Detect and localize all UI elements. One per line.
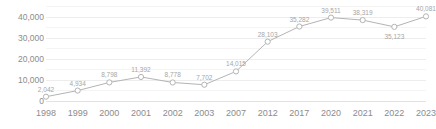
x-axis-tick-label: 2000 bbox=[99, 108, 119, 118]
y-axis-tick-label: 10,000 bbox=[2, 76, 44, 85]
data-point-label: 4,934 bbox=[70, 80, 86, 87]
x-axis-tick-label: 2003 bbox=[194, 108, 214, 118]
data-point-marker[interactable] bbox=[360, 18, 365, 23]
data-point-label: 8,798 bbox=[101, 71, 117, 78]
x-axis-tick-label: 2017 bbox=[289, 108, 309, 118]
y-axis-tick-label: 0 bbox=[2, 97, 44, 106]
data-point-label: 11,392 bbox=[131, 66, 150, 73]
data-point-marker[interactable] bbox=[75, 88, 80, 93]
data-point-marker[interactable] bbox=[138, 74, 143, 79]
x-axis-tick-label: 2001 bbox=[131, 108, 151, 118]
data-point-label: 35,282 bbox=[289, 16, 309, 23]
y-axis-tick-label: 30,000 bbox=[2, 34, 44, 43]
data-point-marker[interactable] bbox=[233, 69, 238, 74]
data-point-label: 7,702 bbox=[196, 74, 212, 81]
x-axis-tick-label: 1998 bbox=[36, 108, 56, 118]
series-line bbox=[46, 6, 426, 101]
data-point-marker[interactable] bbox=[423, 14, 428, 19]
data-point-label: 28,103 bbox=[258, 31, 278, 38]
x-axis-tick-label: 2023 bbox=[416, 108, 436, 118]
data-point-marker[interactable] bbox=[297, 24, 302, 29]
y-axis-tick-label: 40,000 bbox=[2, 13, 44, 22]
data-point-marker[interactable] bbox=[328, 15, 333, 20]
y-axis-tick-label: 20,000 bbox=[2, 55, 44, 64]
data-point-label: 40,081 bbox=[416, 5, 436, 12]
x-axis: 1998199920002001200220032007201220172020… bbox=[46, 106, 426, 124]
data-point-label: 8,778 bbox=[165, 71, 181, 78]
x-axis-tick-label: 2007 bbox=[226, 108, 246, 118]
x-axis-tick-label: 2021 bbox=[353, 108, 373, 118]
series-path bbox=[46, 16, 426, 96]
data-point-label: 2,042 bbox=[38, 86, 54, 93]
x-axis-tick-label: 2020 bbox=[321, 108, 341, 118]
data-point-marker[interactable] bbox=[202, 82, 207, 87]
data-point-marker[interactable] bbox=[43, 94, 48, 99]
data-point-label: 38,319 bbox=[353, 9, 373, 16]
plot-area: 2,0424,9348,79811,3928,7787,70214,01528,… bbox=[46, 6, 426, 101]
data-point-label: 39,511 bbox=[321, 7, 340, 14]
x-axis-tick-label: 2012 bbox=[258, 108, 278, 118]
data-point-marker[interactable] bbox=[107, 80, 112, 85]
x-axis-tick-label: 1999 bbox=[68, 108, 88, 118]
data-point-label: 35,123 bbox=[384, 33, 404, 40]
data-point-marker[interactable] bbox=[265, 39, 270, 44]
x-axis-tick-label: 2022 bbox=[384, 108, 404, 118]
data-point-marker[interactable] bbox=[392, 24, 397, 29]
data-point-marker[interactable] bbox=[170, 80, 175, 85]
x-axis-tick-label: 2002 bbox=[163, 108, 183, 118]
data-point-label: 14,015 bbox=[226, 60, 246, 67]
x-axis-line bbox=[46, 101, 426, 102]
